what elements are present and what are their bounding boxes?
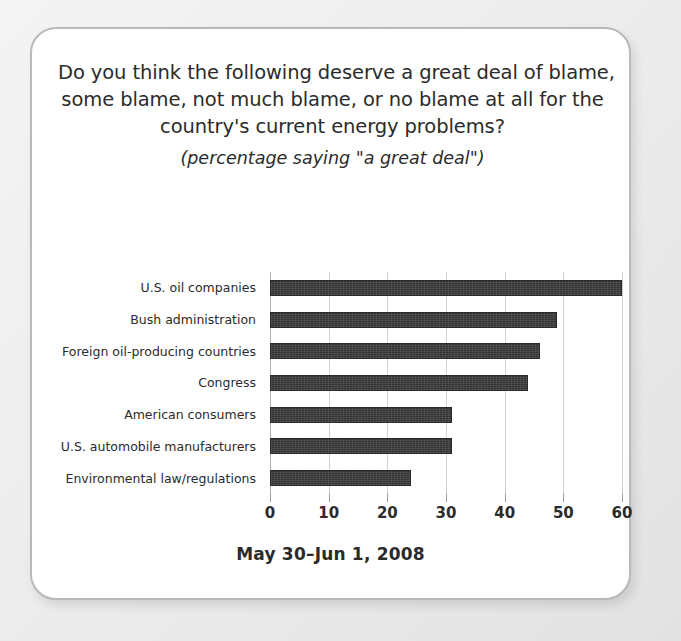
bar: [270, 343, 540, 359]
x-tick-mark-30: [446, 494, 447, 502]
category-label: U.S. oil companies: [32, 272, 262, 304]
x-tick-label-0: 0: [250, 504, 290, 522]
x-tick-mark-60: [622, 494, 623, 502]
x-tick-label-30: 30: [426, 504, 466, 522]
category-label: U.S. automobile manufacturers: [32, 431, 262, 463]
chart-card: Do you think the following deserve a gre…: [30, 27, 631, 600]
category-label: Foreign oil-producing countries: [32, 335, 262, 367]
chart-title-line-3: country's current energy problems?: [58, 113, 607, 140]
chart-title-block: Do you think the following deserve a gre…: [58, 59, 607, 169]
x-tick-mark-40: [505, 494, 506, 502]
category-label: Bush administration: [32, 304, 262, 336]
x-tick-label-50: 50: [543, 504, 583, 522]
chart-subtitle: (percentage saying "a great deal"): [58, 147, 607, 169]
bar: [270, 407, 452, 423]
x-tick-label-10: 10: [309, 504, 349, 522]
bar-series: [270, 272, 622, 494]
x-tick-mark-10: [329, 494, 330, 502]
x-tick-label-20: 20: [367, 504, 407, 522]
bar: [270, 375, 528, 391]
survey-date-footer: May 30–Jun 1, 2008: [32, 544, 629, 564]
plot-area: [270, 272, 622, 494]
x-tick-label-40: 40: [485, 504, 525, 522]
bar: [270, 470, 411, 486]
x-tick-mark-0: [270, 494, 271, 502]
bar: [270, 438, 452, 454]
bar: [270, 280, 622, 296]
chart-title-line-2: some blame, not much blame, or no blame …: [58, 86, 607, 113]
bar-row: [270, 399, 622, 431]
bar-row: [270, 335, 622, 367]
bar-row: [270, 462, 622, 494]
bar-row: [270, 304, 622, 336]
category-label: American consumers: [32, 399, 262, 431]
category-axis-labels: U.S. oil companiesBush administrationFor…: [32, 272, 262, 494]
x-tick-mark-20: [387, 494, 388, 502]
category-label: Congress: [32, 367, 262, 399]
bar-row: [270, 367, 622, 399]
bar-row: [270, 272, 622, 304]
gridline-60: [622, 272, 623, 494]
x-tick-label-60: 60: [602, 504, 642, 522]
x-axis: 0102030405060: [270, 494, 622, 528]
bar-row: [270, 431, 622, 463]
chart-title-line-1: Do you think the following deserve a gre…: [58, 59, 607, 86]
category-label: Environmental law/regulations: [32, 462, 262, 494]
page-background: Do you think the following deserve a gre…: [0, 0, 681, 641]
bar-chart: U.S. oil companiesBush administrationFor…: [32, 244, 629, 514]
bar: [270, 312, 557, 328]
x-tick-mark-50: [563, 494, 564, 502]
